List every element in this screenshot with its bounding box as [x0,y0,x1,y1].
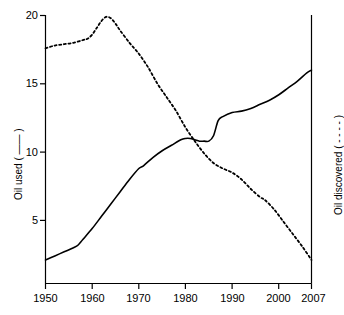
x-tick-label-1950: 1950 [25,293,66,304]
series-layer [46,17,312,260]
x-tick-label-1980: 1980 [165,293,206,304]
x-tick-label-1960: 1960 [72,293,113,304]
y-axis-left-title: Oil used ( —— ) [14,128,24,200]
x-tick-label-1970: 1970 [118,293,159,304]
y-tick-label-20: 20 [10,10,38,21]
y-axis-right-title: Oil discovered ( - - - - ) [334,115,344,215]
x-tick-label-1990: 1990 [212,293,253,304]
y-axis-ticks [40,16,45,221]
x-tick-label-2007: 2007 [293,293,334,304]
y-tick-label-5: 5 [10,215,38,226]
y-tick-label-15: 15 [10,78,38,89]
series-line-oil-discovered [46,17,312,260]
series-line-oil-used [46,70,312,260]
x-axis-ticks [46,284,312,290]
